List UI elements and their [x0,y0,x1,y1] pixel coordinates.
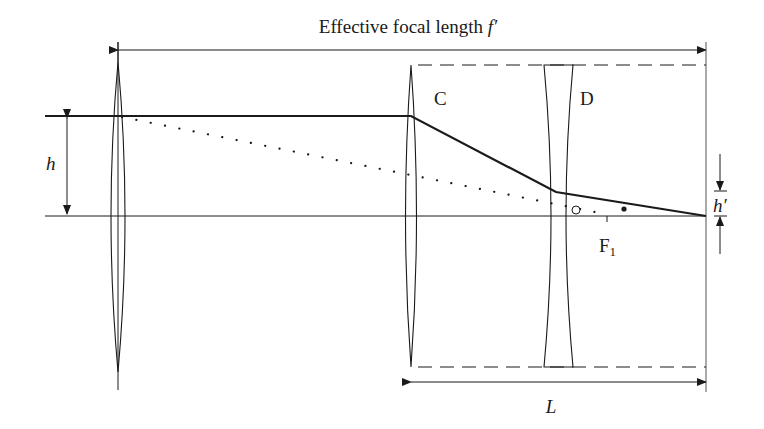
input-height-dimension: h [46,118,67,214]
h-label: h [46,153,56,174]
f1-label: F1 [599,235,616,259]
h-prime-label: h′ [713,195,728,216]
open-point-marker [572,206,580,214]
l-label: L [545,396,557,417]
extended-ray [122,117,600,213]
telephoto-lens-diagram: Effective focal length f′ h C D F1 h′ [0,0,764,429]
lens-c-label: C [434,88,447,109]
marginal-ray [45,116,706,216]
output-height-dimension: h′ [713,154,728,254]
filled-point-marker [621,206,626,211]
lens-d-label: D [580,88,594,109]
effective-focal-length-label: Effective focal length f′ [319,16,498,37]
focal-length-dimension [118,42,706,392]
